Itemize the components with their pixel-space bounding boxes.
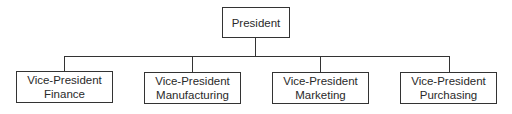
vp-purchasing-dept: Purchasing [420,88,478,102]
vp-manufacturing-box: Vice-President Manufacturing [144,72,241,104]
finance-connector [64,56,65,71]
vp-purchasing-box: Vice-President Purchasing [400,72,497,104]
manufacturing-connector [192,56,193,72]
vp-finance-dept: Finance [44,87,85,101]
vp-manufacturing-title: Vice-President [155,74,230,88]
purchasing-connector [449,56,450,72]
marketing-connector [320,56,321,72]
president-box: President [222,7,290,38]
vp-marketing-box: Vice-President Marketing [272,72,369,104]
vp-manufacturing-dept: Manufacturing [156,88,229,102]
president-label: President [232,16,281,30]
vp-marketing-dept: Marketing [295,88,346,102]
root-connector [255,38,256,56]
vp-finance-box: Vice-President Finance [16,71,113,103]
horizontal-connector [64,56,450,57]
vp-marketing-title: Vice-President [283,74,358,88]
vp-finance-title: Vice-President [27,73,102,87]
vp-purchasing-title: Vice-President [411,74,486,88]
